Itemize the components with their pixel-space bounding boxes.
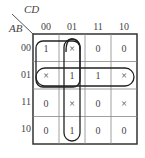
cell-r0-c1: × (69, 43, 75, 54)
cell-r2-c1: × (69, 98, 75, 109)
cell-r3-c0: 0 (44, 125, 49, 136)
cell-r1-c1: 1 (70, 70, 75, 81)
cell-r0-c0: 1 (44, 43, 49, 54)
cell-r3-c1: 1 (70, 125, 75, 136)
col-var-label: CD (24, 3, 39, 15)
cell-r0-c3: 0 (122, 43, 127, 54)
cell-r0-c2: 0 (96, 43, 101, 54)
cell-r1-c3: × (121, 70, 127, 81)
col-label-00: 00 (41, 21, 51, 32)
row-label-11: 11 (21, 96, 31, 107)
col-label-10: 10 (119, 21, 129, 32)
row-label-10: 10 (21, 123, 31, 134)
cell-r2-c3: × (121, 98, 127, 109)
karnaugh-map: CD AB 00 01 11 10 00 01 11 10 1 × 0 0 × … (0, 0, 145, 158)
cell-r3-c2: 0 (96, 125, 101, 136)
row-var-label: AB (8, 22, 23, 34)
cell-r1-c0: × (43, 70, 49, 81)
cell-r3-c3: 0 (122, 125, 127, 136)
col-label-01: 01 (67, 21, 77, 32)
cell-r2-c2: 0 (96, 98, 101, 109)
row-label-00: 00 (21, 42, 31, 53)
cell-r1-c2: 1 (96, 70, 101, 81)
cell-r2-c0: 0 (44, 98, 49, 109)
row-label-01: 01 (21, 69, 31, 80)
col-label-11: 11 (93, 21, 103, 32)
